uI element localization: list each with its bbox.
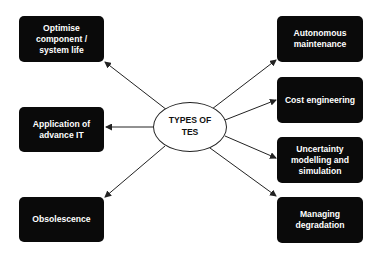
center-node-types-of-tes: TYPES OF TES [153,102,227,152]
edge-to-uncertainty [225,136,276,158]
node-cost-engineering: Cost engineering [277,77,363,123]
types-of-tes-diagram: TYPES OF TES Optimise component / system… [0,0,383,254]
edge-to-cost-engineering [225,100,276,120]
edge-to-degradation [210,148,276,196]
node-uncertainty-modelling: Uncertainty modelling and simulation [277,137,363,183]
edge-to-obsolescence [105,146,165,197]
node-autonomous-maintenance: Autonomous maintenance [277,16,363,62]
node-optimise-component-life: Optimise component / system life [19,16,104,62]
node-application-advance-it: Application of advance IT [19,107,104,152]
node-obsolescence: Obsolescence [19,197,104,242]
node-managing-degradation: Managing degradation [277,197,363,243]
edge-to-autonomous [212,60,276,109]
edge-to-optimise [105,62,167,110]
